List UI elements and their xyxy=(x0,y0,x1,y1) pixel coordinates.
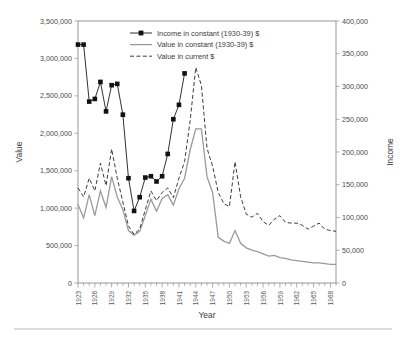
income-data-marker xyxy=(154,179,159,184)
income-data-marker xyxy=(76,42,81,47)
y-axis-right-tick-label: 0 xyxy=(342,279,346,288)
y-axis-right-title: Income xyxy=(385,138,395,166)
income-data-marker xyxy=(81,42,86,47)
x-axis-tick-label: 1926 xyxy=(91,291,98,306)
y-axis-left-tick-label: 2,000,000 xyxy=(40,129,72,138)
income-data-marker xyxy=(182,71,187,76)
x-axis-tick-label: 1953 xyxy=(243,291,250,306)
x-axis-tick-label: 1923 xyxy=(75,291,82,306)
income-data-marker xyxy=(87,99,92,104)
y-axis-left-title: Value xyxy=(14,141,24,162)
legend-label: Value in constant (1930-39) $ xyxy=(157,40,253,49)
income-data-marker xyxy=(149,174,154,179)
x-axis-tick-label: 1950 xyxy=(226,291,233,306)
y-axis-left-tick-label: 3,000,000 xyxy=(40,54,72,63)
income-data-marker xyxy=(126,176,131,181)
income-data-marker xyxy=(109,83,114,88)
x-axis-tick-label: 1965 xyxy=(310,291,317,306)
income-data-marker xyxy=(137,195,142,200)
income-data-marker xyxy=(121,112,126,117)
legend-marker-income xyxy=(139,31,144,36)
x-axis-tick-label: 1968 xyxy=(327,291,334,306)
x-axis-tick-label: 1935 xyxy=(142,291,149,306)
x-axis-tick-label: 1932 xyxy=(125,291,132,306)
y-axis-right-tick-label: 150,000 xyxy=(342,180,368,189)
y-axis-right-tick-label: 200,000 xyxy=(342,148,368,157)
y-axis-right-tick-label: 400,000 xyxy=(342,17,368,26)
y-axis-left-tick-label: 500,000 xyxy=(46,241,72,250)
x-axis-tick-label: 1956 xyxy=(260,291,267,306)
y-axis-left-tick-label: 2,500,000 xyxy=(40,91,72,100)
x-axis-tick-label: 1929 xyxy=(108,291,115,306)
income-data-marker xyxy=(160,174,165,179)
legend-label: Value in current $ xyxy=(157,52,214,61)
income-data-marker xyxy=(115,82,120,87)
income-data-marker xyxy=(177,103,182,108)
y-axis-left-tick-label: 1,500,000 xyxy=(40,166,72,175)
x-axis-tick-label: 1938 xyxy=(159,291,166,306)
legend-label: Income in constant (1930-39) $ xyxy=(157,29,259,38)
y-axis-left-tick-label: 0 xyxy=(68,279,72,288)
income-data-marker xyxy=(165,152,170,157)
x-axis-tick-label: 1947 xyxy=(209,291,216,306)
y-axis-right-tick-label: 300,000 xyxy=(342,82,368,91)
y-axis-right-tick-label: 250,000 xyxy=(342,115,368,124)
y-axis-right-tick-label: 350,000 xyxy=(342,49,368,58)
x-axis-tick-label: 1959 xyxy=(277,291,284,306)
income-data-marker xyxy=(132,209,137,214)
chart-figure: 0500,0001,000,0001,500,0002,000,0002,500… xyxy=(0,0,406,341)
y-axis-right-tick-label: 100,000 xyxy=(342,213,368,222)
income-data-marker xyxy=(104,109,109,114)
income-data-marker xyxy=(93,97,98,102)
income-data-marker xyxy=(171,117,176,122)
dual-axis-line-chart: 0500,0001,000,0001,500,0002,000,0002,500… xyxy=(0,0,406,341)
y-axis-right-tick-label: 50,000 xyxy=(342,246,364,255)
y-axis-left-tick-label: 3,500,000 xyxy=(40,17,72,26)
x-axis-tick-label: 1941 xyxy=(176,291,183,306)
x-axis-tick-label: 1962 xyxy=(293,291,300,306)
x-axis-tick-label: 1944 xyxy=(192,291,199,306)
income-data-marker xyxy=(98,80,103,85)
y-axis-left-tick-label: 1,000,000 xyxy=(40,204,72,213)
income-data-marker xyxy=(143,175,148,180)
x-axis-title: Year xyxy=(199,310,216,320)
